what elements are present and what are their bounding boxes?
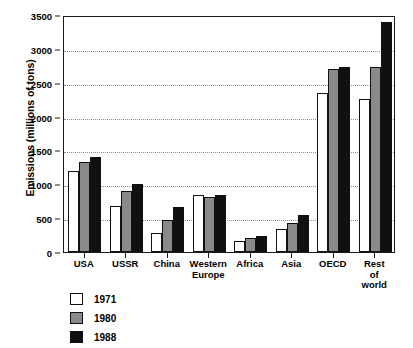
y-tick-label: 1000 [31,180,52,191]
bar-1971 [276,229,287,252]
bar-group [64,17,106,252]
bar-1988 [298,215,309,252]
y-tick-label: 3000 [31,44,52,55]
legend-label: 1980 [94,313,116,324]
bar-1988 [256,236,267,252]
x-tick-label: USSR [112,259,138,270]
y-axis-tick-labels: 0500100015002000250030003500 [0,16,60,253]
bar-group [147,17,189,252]
bar-groups [64,17,394,252]
y-tick-mark [55,83,60,84]
bar-1980 [121,191,132,252]
bar-1971 [110,206,121,252]
bar-group [355,17,397,252]
bar-1980 [370,67,381,252]
y-tick-label: 2500 [31,78,52,89]
y-tick-mark [55,253,60,254]
bar-group [272,17,314,252]
legend-item-1971: 1971 [70,291,116,307]
bar-1980 [287,223,298,252]
y-tick-mark [55,117,60,118]
plot-area [63,16,395,253]
bar-group [106,17,148,252]
bar-1971 [234,241,245,253]
bar-1988 [339,67,350,252]
bar-1971 [359,99,370,252]
legend-item-1980: 1980 [70,310,116,326]
legend-label: 1971 [94,294,116,305]
y-tick-label: 0 [47,248,52,259]
legend-item-1988: 1988 [70,329,116,345]
x-tick-label: China [154,259,180,270]
y-tick-mark [55,185,60,186]
bar-group [189,17,231,252]
legend-swatch-1980 [70,312,83,324]
bar-1988 [132,184,143,252]
legend-swatch-1988 [70,331,83,343]
x-tick-label: Western Europe [190,259,227,280]
x-tick-label: Rest of world [362,259,387,291]
bar-1980 [162,220,173,252]
y-tick-mark [55,49,60,50]
bar-1971 [151,233,162,252]
legend-label: 1988 [94,332,116,343]
x-axis-tick-labels: USAUSSRChinaWestern EuropeAfricaAsiaOECD… [63,253,395,295]
bar-1980 [245,238,256,252]
y-tick-mark [55,16,60,17]
emissions-bar-chart: Emissions (millions of tons) 05001000150… [0,0,413,348]
y-tick-label: 3500 [31,11,52,22]
bar-group [313,17,355,252]
bar-1980 [204,197,215,252]
bar-1980 [79,162,90,252]
bar-1988 [381,22,392,252]
legend: 197119801988 [70,291,116,348]
x-tick-label: OECD [319,259,346,270]
bar-1980 [328,69,339,252]
y-tick-label: 1500 [31,146,52,157]
x-tick-label: Asia [281,259,301,270]
y-tick-label: 500 [36,214,52,225]
x-tick-label: USA [74,259,94,270]
bar-group [230,17,272,252]
bar-1971 [193,195,204,252]
bar-1988 [90,157,101,252]
bar-1988 [173,207,184,252]
y-tick-label: 2000 [31,112,52,123]
bar-1971 [68,171,79,252]
y-tick-mark [55,219,60,220]
bar-1988 [215,195,226,252]
y-tick-mark [55,151,60,152]
legend-swatch-1971 [70,293,83,305]
bar-1971 [317,93,328,252]
x-tick-label: Africa [236,259,263,270]
